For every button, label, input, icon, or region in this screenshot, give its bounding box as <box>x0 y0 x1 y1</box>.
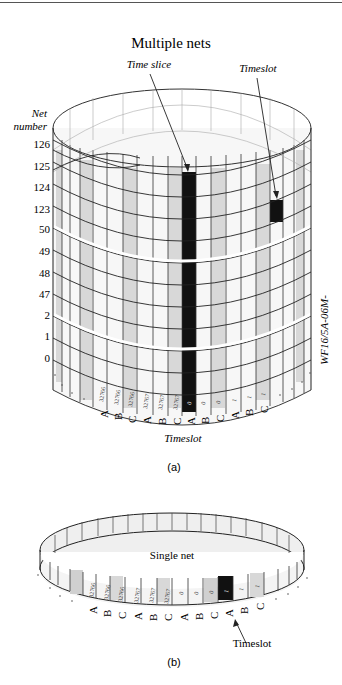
svg-text:A: A <box>132 612 144 620</box>
timeslot-callout-b: Timeslot <box>233 637 272 649</box>
figure-code: WF16/5A-06M- <box>318 295 330 365</box>
svg-text:B: B <box>193 613 205 620</box>
svg-text:A: A <box>223 609 235 617</box>
svg-text:C: C <box>254 603 266 610</box>
svg-text:1: 1 <box>45 330 51 342</box>
svg-text:0: 0 <box>45 352 51 364</box>
svg-text:126: 126 <box>34 138 51 150</box>
svg-text:B: B <box>112 413 124 420</box>
svg-text:C: C <box>208 612 220 619</box>
time-slice-column <box>182 172 196 412</box>
svg-text:B: B <box>101 610 113 617</box>
svg-text:B: B <box>156 418 168 425</box>
svg-text:B: B <box>199 417 211 424</box>
svg-text:C: C <box>126 416 138 423</box>
svg-text:50: 50 <box>39 223 51 235</box>
figure-a-title: Multiple nets <box>131 35 211 51</box>
svg-text:123: 123 <box>34 203 51 215</box>
cylinder-multiple-nets <box>53 74 311 425</box>
svg-text:C: C <box>116 612 128 619</box>
svg-text:A: A <box>98 410 110 418</box>
svg-text:A: A <box>185 417 197 425</box>
svg-text:B: B <box>147 614 159 621</box>
highlighted-timeslot-cell <box>270 200 283 222</box>
svg-text:49: 49 <box>39 245 51 257</box>
svg-text:124: 124 <box>34 181 51 193</box>
highlighted-timeslot-b <box>218 576 233 600</box>
svg-text:B: B <box>238 607 250 614</box>
svg-text:B: B <box>243 409 255 416</box>
time-slice-callout: Time slice <box>127 58 171 70</box>
svg-text:48: 48 <box>39 267 51 279</box>
svg-text:C: C <box>258 406 270 413</box>
svg-text:A: A <box>141 416 153 424</box>
net-axis-label-2: number <box>13 120 47 132</box>
figure-b-caption: (b) <box>167 656 180 668</box>
svg-text:2: 2 <box>45 309 51 321</box>
svg-text:C: C <box>214 415 226 422</box>
svg-text:A: A <box>229 411 241 419</box>
svg-text:C: C <box>171 418 183 425</box>
svg-text:47: 47 <box>39 288 51 300</box>
timeslot-callout-a: Timeslot <box>239 62 277 74</box>
figure-a-caption: (a) <box>167 461 180 473</box>
svg-text:A: A <box>178 613 190 621</box>
svg-text:125: 125 <box>34 160 51 172</box>
timeslot-axis-label: Timeslot <box>164 432 202 444</box>
net-number-labels: 126 125 124 123 50 49 48 47 2 1 0 <box>34 138 51 364</box>
net-axis-label-1: Net <box>31 107 48 119</box>
svg-text:A: A <box>87 606 99 614</box>
single-net-label: Single net <box>150 549 194 561</box>
timeslot-diagram: Multiple nets Time slice Timeslot <box>0 0 342 685</box>
svg-text:C: C <box>162 614 174 621</box>
